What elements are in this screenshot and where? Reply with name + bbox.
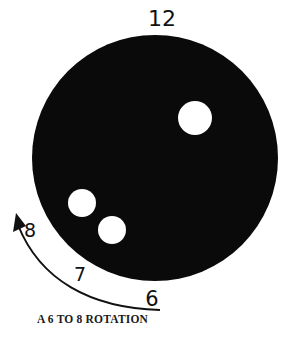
clock-label-8: 8 [24, 219, 36, 241]
clock-label-7: 7 [74, 263, 86, 285]
finger-hole-2 [98, 216, 126, 244]
diagram-caption: A 6 TO 8 ROTATION [0, 313, 185, 325]
bowling-ball-diagram: 12 8 7 6 [0, 0, 285, 339]
finger-hole-1 [68, 189, 96, 217]
bowling-ball [32, 35, 278, 281]
clock-label-12: 12 [148, 6, 176, 31]
thumb-hole [178, 101, 212, 135]
clock-label-6: 6 [145, 287, 158, 311]
